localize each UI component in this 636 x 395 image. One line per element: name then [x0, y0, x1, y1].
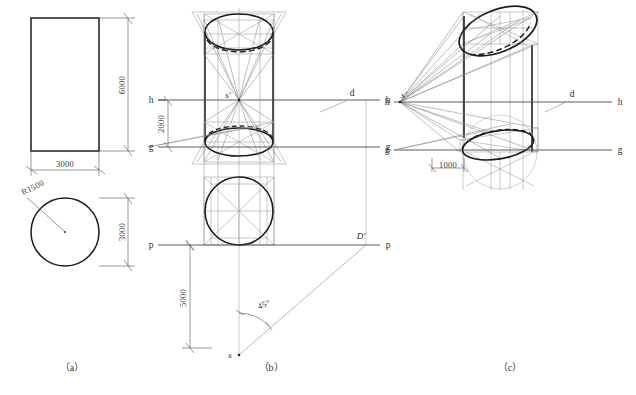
panel-c-ground-left-label: g: [385, 145, 390, 155]
panel-c-measure-rays: [394, 124, 510, 150]
panel-c-top-construction: [463, 12, 538, 44]
panel-c-ground-right-label: g: [618, 145, 623, 155]
panel-c-distance-point-label: d: [570, 89, 575, 99]
panel-c-vanishing-point-label: s′: [401, 90, 408, 100]
drawing-sheet: 6000 3000 R1500 3000 （a）: [0, 0, 636, 395]
panel-a-height-label: 6000: [117, 76, 127, 94]
panel-c-horizon-right-label: h: [618, 97, 623, 107]
panel-a-width-label: 3000: [56, 159, 74, 169]
panel-b-diagonal-point-label: D′: [356, 231, 366, 241]
panel-b-station-distance-label: 5000: [178, 289, 188, 307]
panel-b-ground-left-label: g: [149, 142, 154, 152]
panel-b-station-rays: [239, 245, 366, 355]
panel-b-caption: （b）: [259, 362, 284, 373]
panel-c-bottom-ellipse: [460, 125, 535, 164]
panel-a-elevation: [31, 18, 99, 151]
panel-b-horizon-left-label: h: [149, 95, 154, 105]
panel-b-picture-line: [158, 240, 380, 250]
panel-c-caption: （c）: [498, 362, 522, 373]
panel-c-offset-label: 1000: [439, 160, 457, 170]
panel-b-station-point-label: s: [228, 350, 232, 360]
panel-a-depth-label: 3000: [117, 223, 127, 241]
panel-b-vanishing-point: [238, 99, 240, 101]
panel-b-picture-left-label: p: [149, 240, 154, 250]
panel-b-eye-height-label: 2000: [156, 115, 166, 133]
panel-b: h h d s′ g g 2000: [140, 0, 400, 395]
panel-a-caption: （a）: [60, 362, 84, 373]
panel-c-perspective-rays: [400, 12, 538, 158]
panel-c: h h d s′ g g 1000 （c）: [380, 0, 636, 395]
panel-b-angle-label: 45°: [256, 297, 272, 311]
panel-b-distance-leader: [320, 101, 346, 112]
panel-a-radius-label: R1500: [20, 178, 46, 198]
panel-c-vanishing-point: [399, 101, 402, 104]
panel-b-distance-point-label: d: [350, 88, 355, 98]
panel-b-angle-arc: [236, 310, 272, 330]
panel-c-top-ellipse: [452, 0, 544, 66]
panel-c-distance-leader: [545, 102, 566, 112]
panel-b-station-point: [238, 354, 241, 357]
panel-c-horizon-left-label: h: [385, 97, 390, 107]
panel-b-vanishing-point-label: s′: [225, 90, 232, 100]
panel-b-construction-verticals: [204, 8, 366, 355]
